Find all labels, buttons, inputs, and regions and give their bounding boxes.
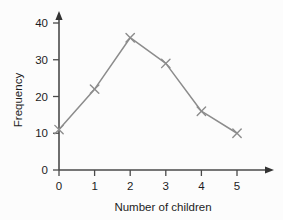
y-axis-ticks: [53, 23, 59, 170]
chart-canvas: 0 10 20 30 40 0 1 2 3 4 5 Number of chil…: [0, 0, 283, 220]
series-marker-point-5: [233, 129, 241, 137]
frequency-line-chart: 0 10 20 30 40 0 1 2 3 4 5 Number of chil…: [0, 0, 283, 220]
x-tick-label-5: 5: [234, 180, 240, 192]
series-marker-point-3: [162, 59, 170, 67]
y-axis-title: Frequency: [12, 73, 24, 128]
y-tick-label-20: 20: [35, 91, 48, 103]
y-tick-label-40: 40: [35, 17, 48, 29]
series-line: [59, 38, 237, 134]
y-tick-label-0: 0: [42, 164, 48, 176]
x-tick-label-0: 0: [56, 180, 62, 192]
x-tick-label-3: 3: [163, 180, 169, 192]
x-tick-label-4: 4: [198, 180, 205, 192]
y-tick-label-10: 10: [35, 127, 48, 139]
x-axis-tick-labels: 0 1 2 3 4 5: [56, 180, 240, 192]
x-tick-label-2: 2: [127, 180, 133, 192]
x-axis-ticks: [59, 170, 237, 176]
y-tick-label-30: 30: [35, 54, 48, 66]
series-marker-point-2: [126, 34, 134, 42]
x-axis-title: Number of children: [114, 201, 211, 213]
y-axis-arrowhead: [55, 11, 62, 20]
series-marker-point-4: [197, 107, 205, 115]
series-marker-point-1: [90, 85, 98, 93]
x-tick-label-1: 1: [91, 180, 97, 192]
y-axis-tick-labels: 0 10 20 30 40: [35, 17, 48, 176]
series-markers: [55, 34, 241, 138]
x-axis-arrowhead: [265, 166, 274, 173]
